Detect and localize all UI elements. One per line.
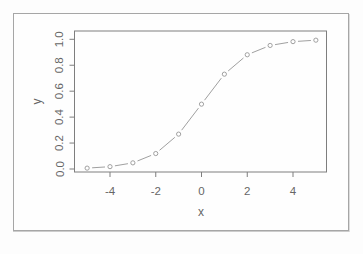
series-segment xyxy=(115,164,128,166)
series-segment xyxy=(160,137,175,150)
data-point xyxy=(108,165,112,169)
y-tick-label: 0.8 xyxy=(54,57,66,73)
series-segment xyxy=(138,155,152,161)
y-tick-label: 0.6 xyxy=(54,83,66,99)
series-data-points xyxy=(85,38,318,170)
data-point xyxy=(199,102,203,106)
series-segment xyxy=(92,167,105,168)
y-axis-label: y xyxy=(30,99,44,105)
figure-canvas: -4-2024 0.00.20.40.60.81.0 x y xyxy=(0,0,363,254)
x-axis-tick-labels: -4-2024 xyxy=(105,185,297,197)
y-axis-tick-labels: 0.00.20.40.60.81.0 xyxy=(54,31,66,177)
series-segment xyxy=(228,58,243,71)
x-tick-label: 0 xyxy=(198,185,204,197)
series-segment xyxy=(205,78,222,100)
y-tick-label: 0.2 xyxy=(54,135,66,151)
x-axis-ticks xyxy=(110,172,293,177)
series-segment xyxy=(182,108,199,130)
x-tick-label: 2 xyxy=(244,185,250,197)
data-point xyxy=(314,38,318,42)
data-point xyxy=(245,53,249,57)
x-tick-label: -4 xyxy=(105,185,116,197)
plot-svg: -4-2024 0.00.20.40.60.81.0 x y xyxy=(0,0,363,254)
y-axis-ticks xyxy=(70,39,75,169)
data-point xyxy=(177,132,181,136)
x-axis-label: x xyxy=(198,205,204,219)
series-segment xyxy=(275,42,288,44)
series-segment xyxy=(252,47,266,53)
data-point xyxy=(131,161,135,165)
data-point xyxy=(154,151,158,155)
plot-box xyxy=(75,31,327,172)
y-tick-label: 0.4 xyxy=(54,109,66,126)
data-point xyxy=(85,166,89,170)
series-segment xyxy=(298,40,311,41)
x-tick-label: -2 xyxy=(151,185,161,197)
x-tick-label: 4 xyxy=(290,185,297,197)
data-point xyxy=(291,40,295,44)
y-tick-label: 0.0 xyxy=(54,161,66,177)
data-point xyxy=(268,43,272,47)
y-tick-label: 1.0 xyxy=(54,31,66,47)
data-point xyxy=(222,72,226,76)
